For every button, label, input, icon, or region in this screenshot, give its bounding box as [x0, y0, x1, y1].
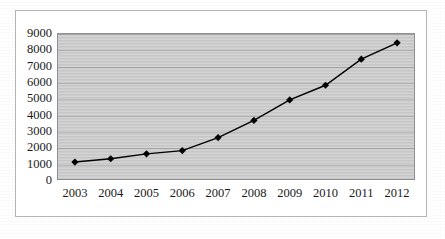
y-axis-tick-label: 0: [8, 174, 52, 186]
series-markers-group: [71, 39, 400, 165]
y-axis-tick-label: 6000: [8, 76, 52, 88]
y-axis-tick-label: 8000: [8, 43, 52, 55]
data-series-layer: [57, 33, 415, 180]
x-axis-tick-labels: 2003200420052006200720082009201020112012: [57, 186, 415, 206]
data-point-marker: [286, 96, 293, 103]
data-point-marker: [250, 117, 257, 124]
data-point-marker: [394, 39, 401, 46]
data-point-marker: [215, 134, 222, 141]
y-axis-tick-label: 1000: [8, 158, 52, 170]
data-point-marker: [179, 147, 186, 154]
chart-container: 9000800070006000500040003000200010000 20…: [0, 0, 445, 239]
data-point-marker: [107, 155, 114, 162]
y-axis-tick-label: 5000: [8, 92, 52, 104]
y-axis-tick-label: 2000: [8, 141, 52, 153]
y-axis-tick-label: 9000: [8, 27, 52, 39]
y-axis-tick-labels: 9000800070006000500040003000200010000: [6, 33, 52, 180]
data-point-marker: [71, 158, 78, 165]
x-axis-tick-label: 2012: [375, 186, 419, 200]
series-line: [75, 43, 397, 162]
y-axis-tick-label: 4000: [8, 109, 52, 121]
y-axis-tick-label: 3000: [8, 125, 52, 137]
y-axis-tick-label: 7000: [8, 60, 52, 72]
data-point-marker: [143, 150, 150, 157]
